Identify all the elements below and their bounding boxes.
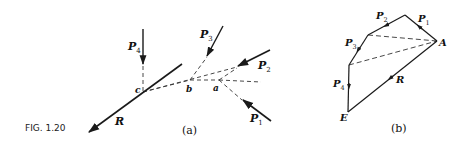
- label-p2-b: P2: [375, 10, 388, 24]
- point-a: a: [213, 83, 219, 93]
- label-r-b: R: [395, 74, 404, 85]
- label-p2-a: P2: [257, 59, 271, 74]
- label-p1-b: P1: [417, 13, 430, 27]
- polygon-side-p4: [348, 65, 349, 112]
- point-b: b: [186, 84, 192, 94]
- label-r-a: R: [114, 115, 124, 128]
- construction-lines-b: [349, 35, 437, 65]
- figure-caption: FIG. 1.20: [25, 123, 66, 133]
- figure-canvas: P4 P3 P2 P1 R c b a (a) FIG. 1.20: [0, 0, 469, 142]
- point-c: c: [135, 85, 141, 95]
- force-polygon: [348, 15, 437, 112]
- panel-a: P4 P3 P2 P1 R c b a (a): [89, 26, 271, 137]
- panel-a-label: (a): [182, 124, 197, 137]
- polygon-arrowheads: [349, 24, 422, 87]
- panel-b: P1 P2 P3 P4 R A E (b): [332, 10, 447, 135]
- point-E: E: [339, 112, 348, 123]
- label-p3-a: P3: [199, 28, 213, 43]
- panel-b-label: (b): [391, 122, 407, 135]
- resultant-r-arrow: [89, 64, 182, 132]
- label-p4-b: P4: [332, 78, 345, 92]
- label-p3-b: P3: [344, 37, 357, 51]
- point-A: A: [438, 37, 447, 48]
- label-p4-a: P4: [127, 40, 141, 55]
